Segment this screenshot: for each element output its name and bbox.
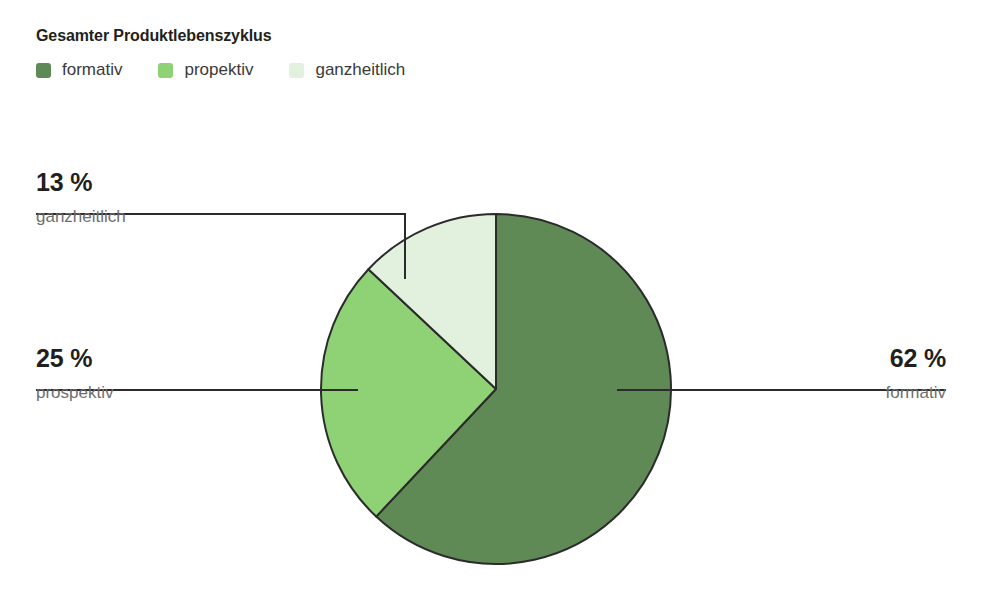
pie-chart-figure: Gesamter Produktlebenszyklus formativ pr… (0, 0, 982, 591)
callout-value-ganzheitlich: 13 % (36, 170, 126, 195)
chart-legend: formativ propektiv ganzheitlich (36, 60, 405, 80)
legend-label-ganzheitlich: ganzheitlich (315, 60, 405, 80)
callout-name-formativ: formativ (886, 384, 946, 401)
leader-line-ganzheitlich-vertical (404, 213, 406, 279)
legend-item-propektiv[interactable]: propektiv (158, 60, 253, 80)
callout-name-ganzheitlich: ganzheitlich (36, 208, 126, 225)
callout-value-formativ: 62 % (886, 346, 946, 371)
callout-value-prospektiv: 25 % (36, 346, 113, 371)
legend-label-propektiv: propektiv (184, 60, 253, 80)
legend-item-ganzheitlich[interactable]: ganzheitlich (289, 60, 405, 80)
legend-item-formativ[interactable]: formativ (36, 60, 122, 80)
legend-label-formativ: formativ (62, 60, 122, 80)
callout-prospektiv: 25 % prospektiv (36, 346, 113, 401)
legend-swatch-propektiv-icon (158, 63, 173, 78)
callout-ganzheitlich: 13 % ganzheitlich (36, 170, 126, 225)
callout-name-prospektiv: prospektiv (36, 384, 113, 401)
page-title: Gesamter Produktlebenszyklus (36, 27, 272, 45)
legend-swatch-ganzheitlich-icon (289, 63, 304, 78)
callout-formativ: 62 % formativ (886, 346, 946, 401)
legend-swatch-formativ-icon (36, 63, 51, 78)
